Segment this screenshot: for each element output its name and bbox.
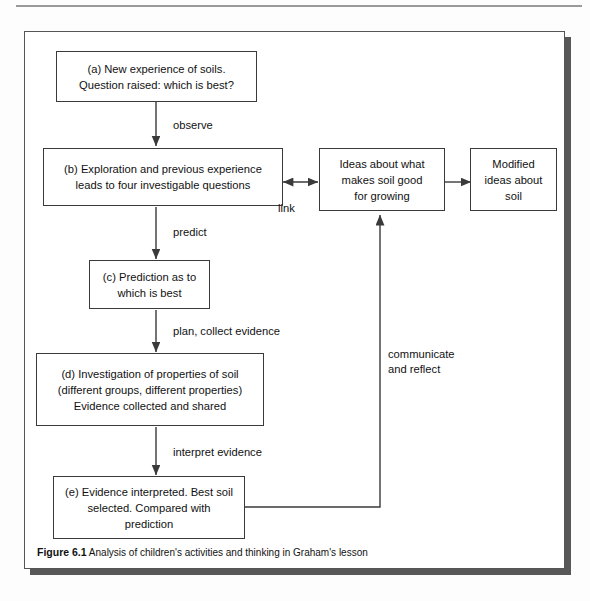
edge-label-link: link (278, 201, 295, 216)
edge-label-interpret-evidence: interpret evidence (173, 445, 262, 460)
node-modified-ideas: Modified ideas about soil (470, 148, 557, 211)
edge-label-predict: predict (173, 225, 207, 240)
flowchart-canvas: (a) New experience of soils. Question ra… (25, 32, 566, 570)
figure-frame: (a) New experience of soils. Question ra… (24, 31, 565, 569)
figure-caption: Figure 6.1 Analysis of children's activi… (37, 545, 557, 560)
node-d: (d) Investigation of properties of soil … (36, 353, 264, 426)
figure-caption-text: Analysis of children's activities and th… (89, 547, 368, 558)
edge-label-observe: observe (173, 118, 213, 133)
node-c: (c) Prediction as to which is best (89, 260, 210, 309)
node-e: (e) Evidence interpreted. Best soil sele… (53, 476, 245, 539)
node-ideas-about-soil: Ideas about what makes soil good for gro… (319, 148, 445, 211)
edge-label-plan-collect-evidence: plan, collect evidence (173, 324, 280, 339)
edge-label-communicate-and-reflect: communicate and reflect (388, 347, 455, 377)
figure-caption-label: Figure 6.1 (37, 546, 87, 558)
page-top-rule (16, 5, 582, 7)
node-a: (a) New experience of soils. Question ra… (56, 51, 257, 102)
page-background: (a) New experience of soils. Question ra… (0, 0, 590, 601)
edge-e-to-ideas (245, 215, 380, 507)
node-b: (b) Exploration and previous experience … (43, 148, 283, 206)
